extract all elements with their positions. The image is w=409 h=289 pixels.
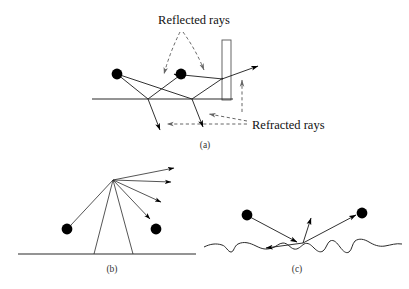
outgoing-photon-dot-b <box>151 224 162 235</box>
light-source-dot-left <box>112 69 123 80</box>
figure-canvas: Reflected rays Refracted rays (a) <box>0 0 409 289</box>
refracted-rays-label: Refracted rays <box>252 118 325 132</box>
panel-label-b: (b) <box>106 264 117 275</box>
light-source-dot-right <box>176 69 187 80</box>
reflected-rays-label: Reflected rays <box>158 13 230 27</box>
outgoing-photon-dot-c <box>357 208 368 219</box>
ray-tracing-figure: Reflected rays Refracted rays (a) <box>0 0 409 289</box>
panel-label-a: (a) <box>200 140 211 151</box>
wall-surface <box>222 40 231 100</box>
incoming-photon-dot-b <box>62 224 73 235</box>
panel-label-c: (c) <box>292 264 303 275</box>
incoming-photon-dot-c <box>242 210 253 221</box>
